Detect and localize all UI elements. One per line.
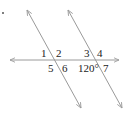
problem-marker-dot <box>2 12 4 14</box>
angle-120-label: 120° <box>78 62 99 74</box>
angle-2-label: 2 <box>56 47 62 59</box>
angle-1-label: 1 <box>41 47 47 59</box>
angle-5-label: 5 <box>48 62 54 74</box>
parallel-lines-diagram: 125634120°7 <box>0 0 126 124</box>
parallel-left-line <box>27 10 81 108</box>
angle-4-label: 4 <box>97 47 103 59</box>
angle-3-label: 3 <box>84 47 90 59</box>
angle-6-label: 6 <box>62 62 68 74</box>
lines-group <box>10 10 122 108</box>
angle-7-label: 7 <box>103 62 109 74</box>
parallel-right-line <box>68 10 122 108</box>
